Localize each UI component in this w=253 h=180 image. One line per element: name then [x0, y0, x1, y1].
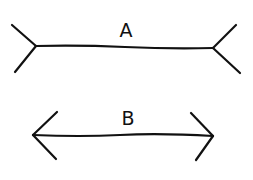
line-a-figure: A [12, 19, 240, 73]
line-b-label: B [121, 107, 134, 129]
line-a-right-fin-upper [213, 25, 236, 48]
line-b-left-arrow-upper [33, 112, 57, 135]
line-a-left-fin-lower [15, 46, 36, 72]
line-a-shaft [36, 46, 213, 49]
line-b-shaft [33, 134, 213, 136]
line-b-figure: B [33, 107, 213, 160]
line-b-left-arrow-lower [33, 135, 56, 159]
line-a-label: A [120, 19, 133, 41]
line-b-right-arrow-lower [196, 136, 213, 160]
line-a-right-fin-lower [213, 48, 240, 73]
line-b-right-arrow-upper [191, 113, 213, 136]
muller-lyer-diagram: A B [0, 0, 253, 180]
line-a-left-fin-upper [12, 25, 36, 46]
